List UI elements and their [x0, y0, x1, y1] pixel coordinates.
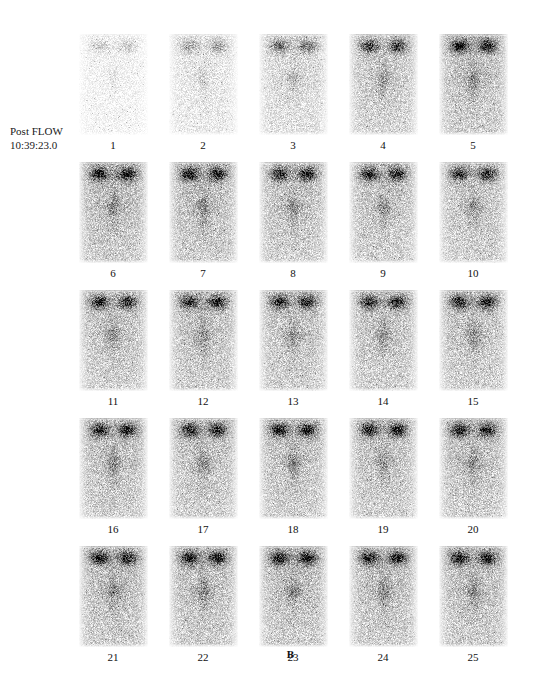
scintigraphy-frame[interactable]: [258, 545, 328, 647]
frame-cell[interactable]: 16: [78, 417, 148, 519]
frame-grid: 1234567891011121314151617181920212223242…: [78, 33, 518, 673]
scintigraphy-image: [168, 545, 238, 647]
scintigraphy-image: [258, 289, 328, 391]
frame-number-label: 20: [438, 523, 508, 536]
frame-row: 12345: [78, 33, 518, 161]
scintigraphy-frame[interactable]: [78, 289, 148, 391]
frame-number-label: 16: [78, 523, 148, 536]
scintigraphy-frame[interactable]: [168, 289, 238, 391]
frame-cell[interactable]: 2: [168, 33, 238, 135]
frame-cell[interactable]: 25: [438, 545, 508, 647]
frame-cell[interactable]: 14: [348, 289, 418, 391]
scintigraphy-image: [258, 417, 328, 519]
scintigraphy-frame[interactable]: [168, 161, 238, 263]
frame-cell[interactable]: 20: [438, 417, 508, 519]
scintigraphy-frame[interactable]: [258, 289, 328, 391]
scintigraphy-image: [438, 545, 508, 647]
frame-cell[interactable]: 9: [348, 161, 418, 263]
scintigraphy-image: [78, 417, 148, 519]
phase-label-text: Post FLOW: [10, 124, 63, 138]
scintigraphy-frame[interactable]: [168, 417, 238, 519]
frame-cell[interactable]: 7: [168, 161, 238, 263]
frame-number-label: 12: [168, 395, 238, 408]
scintigraphy-frame[interactable]: [168, 545, 238, 647]
scintigraphy-frame[interactable]: [168, 33, 238, 135]
frame-number-label: 2: [168, 139, 238, 152]
frame-cell[interactable]: 12: [168, 289, 238, 391]
frame-number-label: 15: [438, 395, 508, 408]
scintigraphy-frame[interactable]: [438, 545, 508, 647]
scintigraphy-image: [78, 161, 148, 263]
scintigraphy-frame[interactable]: [348, 545, 418, 647]
frame-number-label: 19: [348, 523, 418, 536]
scintigraphy-image: [438, 417, 508, 519]
scintigraphy-image: [258, 33, 328, 135]
frame-number-label: 10: [438, 267, 508, 280]
figure-caption: B: [0, 648, 539, 660]
frame-cell[interactable]: 13: [258, 289, 328, 391]
frame-cell[interactable]: 11: [78, 289, 148, 391]
frame-cell[interactable]: 22: [168, 545, 238, 647]
frame-number-label: 9: [348, 267, 418, 280]
scintigraphy-frame[interactable]: [78, 417, 148, 519]
scintigraphy-frame[interactable]: [258, 161, 328, 263]
scintigraphy-image: [348, 545, 418, 647]
scintigraphy-image: [168, 161, 238, 263]
figure-caption-text: B: [287, 648, 294, 660]
frame-cell[interactable]: 5: [438, 33, 508, 135]
frame-row: 678910: [78, 161, 518, 289]
frame-cell[interactable]: 3: [258, 33, 328, 135]
frame-number-label: 13: [258, 395, 328, 408]
scintigraphy-study: Post FLOW 10:39:23.0 1234567891011121314…: [0, 0, 539, 688]
frame-number-label: 4: [348, 139, 418, 152]
scintigraphy-image: [168, 289, 238, 391]
frame-cell[interactable]: 18: [258, 417, 328, 519]
scintigraphy-frame[interactable]: [438, 161, 508, 263]
frame-number-label: 14: [348, 395, 418, 408]
frame-number-label: 1: [78, 139, 148, 152]
frame-cell[interactable]: 4: [348, 33, 418, 135]
frame-row: 1112131415: [78, 289, 518, 417]
scintigraphy-image: [258, 545, 328, 647]
frame-cell[interactable]: 10: [438, 161, 508, 263]
frame-cell[interactable]: 1: [78, 33, 148, 135]
frame-number-label: 11: [78, 395, 148, 408]
frame-cell[interactable]: 21: [78, 545, 148, 647]
scintigraphy-frame[interactable]: [348, 33, 418, 135]
frame-cell[interactable]: 6: [78, 161, 148, 263]
scintigraphy-frame[interactable]: [258, 417, 328, 519]
frame-cell[interactable]: 8: [258, 161, 328, 263]
scintigraphy-image: [258, 161, 328, 263]
acquisition-timestamp: 10:39:23.0: [10, 138, 63, 152]
scintigraphy-image: [438, 161, 508, 263]
scintigraphy-image: [78, 33, 148, 135]
scintigraphy-image: [348, 289, 418, 391]
frame-cell[interactable]: 17: [168, 417, 238, 519]
frame-number-label: 6: [78, 267, 148, 280]
scintigraphy-frame[interactable]: [348, 289, 418, 391]
scintigraphy-frame[interactable]: [78, 545, 148, 647]
scintigraphy-image: [348, 161, 418, 263]
frame-cell[interactable]: 24: [348, 545, 418, 647]
frame-cell[interactable]: 15: [438, 289, 508, 391]
frame-cell[interactable]: 19: [348, 417, 418, 519]
scintigraphy-frame[interactable]: [438, 33, 508, 135]
frame-number-label: 8: [258, 267, 328, 280]
scintigraphy-image: [348, 33, 418, 135]
scintigraphy-frame[interactable]: [258, 33, 328, 135]
frame-number-label: 17: [168, 523, 238, 536]
scintigraphy-frame[interactable]: [348, 161, 418, 263]
scintigraphy-image: [168, 33, 238, 135]
frame-number-label: 18: [258, 523, 328, 536]
frame-cell[interactable]: 23: [258, 545, 328, 647]
scintigraphy-frame[interactable]: [78, 161, 148, 263]
frame-number-label: 5: [438, 139, 508, 152]
frame-number-label: 7: [168, 267, 238, 280]
scintigraphy-image: [438, 289, 508, 391]
scintigraphy-frame[interactable]: [348, 417, 418, 519]
study-phase-label: Post FLOW 10:39:23.0: [10, 124, 63, 152]
scintigraphy-frame[interactable]: [438, 417, 508, 519]
scintigraphy-image: [438, 33, 508, 135]
scintigraphy-frame[interactable]: [438, 289, 508, 391]
scintigraphy-frame[interactable]: [78, 33, 148, 135]
